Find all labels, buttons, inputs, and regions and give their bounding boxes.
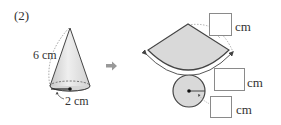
- right-arrow-icon: [106, 62, 117, 71]
- sector-radius-answer-box[interactable]: [209, 13, 232, 36]
- circle-center-dot: [187, 89, 191, 93]
- radius-leader: [57, 92, 64, 99]
- circle-radius-answer-box[interactable]: [210, 96, 232, 118]
- net-figure: [145, 24, 233, 107]
- problem-number: (2): [14, 9, 29, 22]
- slant-height-label: 6 cm: [33, 49, 57, 61]
- base-center-dot: [68, 87, 72, 91]
- arc-length-answer-box[interactable]: [214, 68, 245, 91]
- circle-radius-unit: cm: [236, 103, 252, 116]
- cone-figure: [49, 28, 90, 99]
- sector-radius-unit: cm: [235, 20, 251, 33]
- arc-length-unit: cm: [247, 76, 263, 89]
- base-radius-label: 2 cm: [65, 95, 89, 107]
